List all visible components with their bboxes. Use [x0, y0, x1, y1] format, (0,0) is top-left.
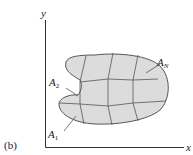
region-shape	[59, 54, 168, 124]
label-an: AN	[156, 56, 169, 70]
area-decomposition-diagram: y x (b) A1 A2 AN	[0, 0, 193, 155]
label-a1: A1	[47, 128, 59, 142]
x-axis-label: x	[185, 141, 191, 153]
y-axis-label: y	[40, 7, 46, 19]
panel-label: (b)	[4, 139, 17, 152]
label-a2: A2	[48, 76, 60, 90]
